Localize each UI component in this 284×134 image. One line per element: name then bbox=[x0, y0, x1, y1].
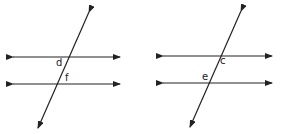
parallel-lines-diagram: d f c e bbox=[0, 0, 284, 134]
angle-label-c: c bbox=[220, 55, 226, 66]
transversal-line bbox=[38, 12, 89, 128]
angle-label-d: d bbox=[56, 57, 62, 68]
transversal-line bbox=[190, 11, 241, 127]
right-figure: c e bbox=[163, 11, 272, 127]
left-figure: d f bbox=[13, 12, 120, 128]
angle-label-e: e bbox=[202, 71, 208, 82]
angle-label-f: f bbox=[65, 72, 69, 83]
